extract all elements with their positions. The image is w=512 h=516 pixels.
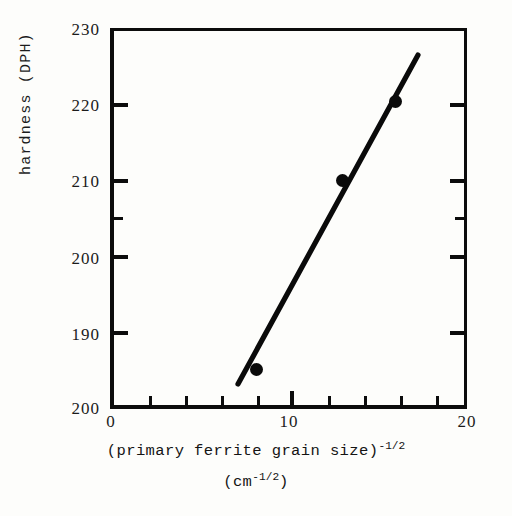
data-point-2 bbox=[336, 174, 349, 187]
x-axis-units: (cm-1/2) bbox=[0, 471, 512, 491]
x-axis-title: (primary ferrite grain size)-1/2 bbox=[0, 440, 512, 460]
data-point-3 bbox=[389, 95, 402, 108]
x-axis-title-text: (primary ferrite grain size) bbox=[107, 442, 379, 460]
x-axis-title-exponent: -1/2 bbox=[378, 440, 405, 452]
x-axis-units-exponent: -1/2 bbox=[252, 471, 279, 483]
data-point-1 bbox=[250, 363, 263, 376]
x-axis-units-close: ) bbox=[279, 473, 289, 491]
figure-canvas: hardness (DPH) 230 220 210 200 190 200 0… bbox=[0, 0, 512, 516]
data-points-group bbox=[0, 0, 512, 516]
x-axis-units-open: (cm bbox=[223, 473, 252, 491]
